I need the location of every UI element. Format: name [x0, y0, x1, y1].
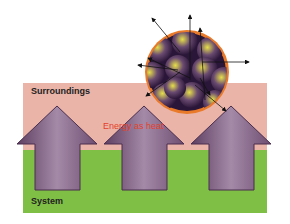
- heat-arrow-icon: [191, 106, 271, 190]
- heat-arrow-icon: [17, 106, 97, 190]
- energy-as-heat-label: Energy as heat: [103, 121, 164, 131]
- surroundings-label: Surroundings: [31, 86, 90, 96]
- particle-sphere-icon: [138, 15, 249, 114]
- diagram-graphics: [0, 0, 290, 224]
- system-label: System: [31, 196, 63, 206]
- heat-arrow-icon: [104, 106, 184, 190]
